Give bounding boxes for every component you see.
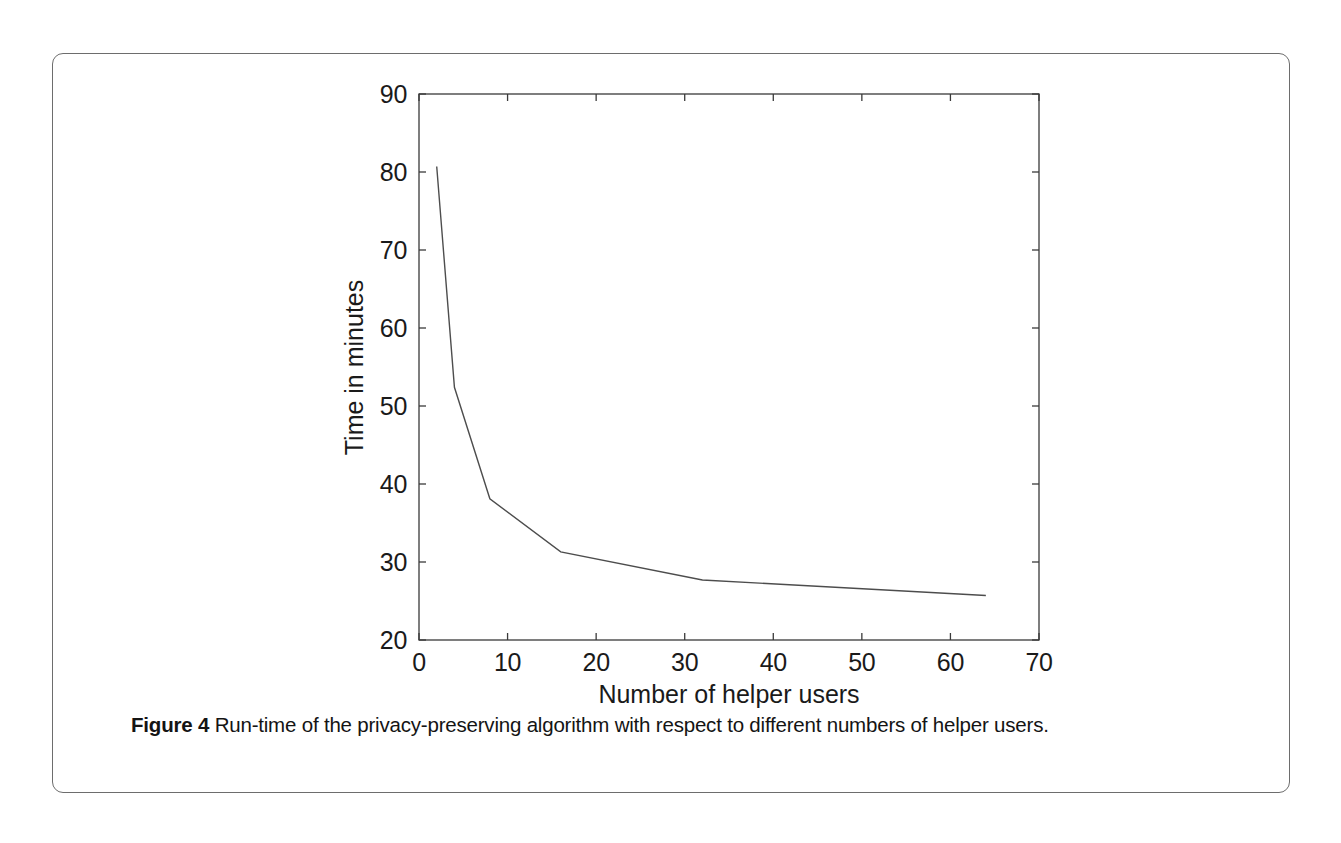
figure-caption: Figure 4 Run-time of the privacy-preserv… — [131, 712, 1221, 739]
chart-plot-area: 2030405060708090 010203040506070 Number … — [367, 86, 1047, 696]
data-line-series-run-time — [437, 167, 986, 596]
y-tick-label-40: 40 — [367, 470, 407, 499]
x-tick-label-60: 60 — [937, 648, 964, 677]
y-axis-title: Time in minutes — [340, 279, 369, 455]
x-tick-label-30: 30 — [671, 648, 698, 677]
x-tick-label-70: 70 — [1025, 648, 1052, 677]
x-tick-label-0: 0 — [412, 648, 426, 677]
y-tick-label-50: 50 — [367, 392, 407, 421]
x-tick-label-50: 50 — [848, 648, 875, 677]
y-tick-label-30: 30 — [367, 548, 407, 577]
y-tick-label-80: 80 — [367, 158, 407, 187]
y-tick-label-70: 70 — [367, 236, 407, 265]
y-tick-label-20: 20 — [367, 626, 407, 655]
y-tick-label-90: 90 — [367, 80, 407, 109]
x-tick-label-10: 10 — [494, 648, 521, 677]
y-tick-label-60: 60 — [367, 314, 407, 343]
x-axis-title: Number of helper users — [598, 680, 859, 709]
x-tick-label-20: 20 — [583, 648, 610, 677]
axes-box — [419, 94, 1039, 640]
x-tick-label-40: 40 — [760, 648, 787, 677]
figure-card: 2030405060708090 010203040506070 Number … — [52, 53, 1290, 793]
figure-caption-text: Run-time of the privacy-preserving algor… — [215, 713, 1049, 736]
chart-svg — [367, 86, 1047, 696]
figure-caption-label: Figure 4 — [131, 713, 209, 736]
x-axis-ticks — [419, 94, 1039, 640]
y-axis-ticks — [419, 94, 1039, 640]
